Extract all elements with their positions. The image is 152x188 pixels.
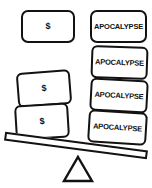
right-pan-apocalypse-card-1: APOCALYPSE (90, 45, 148, 80)
right-pan-apocalypse-card-3: APOCALYPSE (87, 109, 148, 146)
floating-money-card: $ (21, 10, 75, 43)
right-pan-apocalypse-card-2: APOCALYPSE (89, 78, 149, 114)
balance-scale-diagram: $ APOCALYPSE $ $ APOCALYPSE APOCALYPSE A… (0, 0, 152, 188)
fulcrum-triangle-icon (62, 155, 94, 183)
floating-apocalypse-card: APOCALYPSE (90, 10, 147, 43)
